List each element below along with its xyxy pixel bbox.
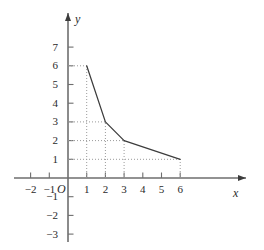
y-tick-label-6: 6 xyxy=(44,60,58,71)
x-tick-label-4: 4 xyxy=(136,184,150,195)
y-tick-label-7: 7 xyxy=(44,42,58,53)
x-axis-label: x xyxy=(233,187,238,199)
y-tick-label--3: −3 xyxy=(38,229,58,240)
y-tick-label-1: 1 xyxy=(44,154,58,165)
y-tick-label-5: 5 xyxy=(44,79,58,90)
x-tick-label-6: 6 xyxy=(173,184,187,195)
x-tick-label--2: −2 xyxy=(21,184,41,195)
origin-label: O xyxy=(57,183,66,195)
x-tick-label-1: 1 xyxy=(80,184,94,195)
y-axis-arrowhead xyxy=(65,13,71,21)
y-axis-label: y xyxy=(75,13,80,25)
y-tick-label--2: −2 xyxy=(38,210,58,221)
y-tick-label-4: 4 xyxy=(44,98,58,109)
x-tick-label-3: 3 xyxy=(117,184,131,195)
data-curve xyxy=(87,66,181,160)
y-tick-label-3: 3 xyxy=(44,116,58,127)
x-axis-arrowhead xyxy=(238,175,246,181)
x-tick-label-5: 5 xyxy=(155,184,169,195)
y-tick-label-2: 2 xyxy=(44,135,58,146)
x-tick-label-2: 2 xyxy=(98,184,112,195)
guide-lines-group xyxy=(68,66,180,178)
